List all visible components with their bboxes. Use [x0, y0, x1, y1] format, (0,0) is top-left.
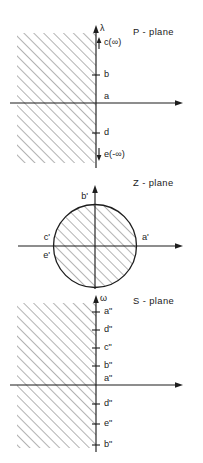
s-plane-marker-label-4: b" — [104, 360, 112, 370]
s-plane-marker-label-2: d" — [104, 324, 112, 334]
s-plane-marker-label-5: a" — [104, 373, 112, 383]
p-plane-marker-label-e: e(-∞) — [104, 149, 125, 159]
z-plane-marker-label-a-prime: a' — [142, 232, 149, 242]
panel-s-plane: ω a" d" c" b" a" d" e" b" S - plane — [0, 290, 203, 463]
s-plane-marker-label-7: e" — [104, 418, 112, 428]
p-plane-title: P - plane — [133, 26, 174, 37]
s-plane-horizontal-axis-arrowhead — [175, 382, 183, 388]
z-plane-marker-label-b-prime: b' — [81, 191, 88, 201]
p-plane-shaded-region — [17, 33, 96, 163]
p-plane-marker-e-arrowhead — [97, 155, 102, 161]
complex-plane-mapping-figure: λ c(∞) b a d e(-∞) P - plane — [0, 0, 203, 463]
p-plane-marker-label-b: b — [104, 69, 109, 79]
z-plane-title: Z - plane — [133, 177, 174, 188]
s-plane-marker-label-1: a" — [104, 306, 112, 316]
p-plane-axis-label: λ — [100, 23, 105, 33]
panel-z-plane: b' c' e' a' d' Z - plane — [0, 172, 203, 290]
p-plane-marker-label-d: d — [104, 127, 109, 137]
s-plane-marker-label-3: c" — [104, 342, 112, 352]
s-plane-vertical-axis-arrowhead — [93, 295, 99, 303]
z-plane-marker-label-c-prime: c' — [44, 232, 51, 242]
panel-p-plane: λ c(∞) b a d e(-∞) P - plane — [0, 0, 203, 172]
s-plane-marker-label-8: b" — [104, 439, 112, 449]
z-plane-vertical-axis-arrowhead — [92, 185, 98, 193]
p-plane-marker-c-arrowhead — [97, 37, 102, 43]
p-plane-vertical-axis-arrowhead — [93, 25, 99, 33]
s-plane-axis-label: ω — [100, 293, 107, 303]
p-plane-marker-label-c: c(∞) — [104, 37, 121, 47]
z-plane-marker-label-e-prime: e' — [43, 250, 50, 260]
s-plane-marker-label-6: d" — [104, 398, 112, 408]
p-plane-horizontal-axis-arrowhead — [175, 100, 183, 106]
s-plane-shaded-region — [17, 303, 96, 448]
s-plane-title: S - plane — [133, 295, 174, 306]
p-plane-marker-label-a: a — [104, 91, 110, 101]
z-plane-horizontal-axis-arrowhead — [175, 243, 183, 249]
